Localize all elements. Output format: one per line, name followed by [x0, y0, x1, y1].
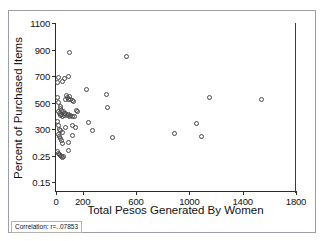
data-point	[84, 87, 89, 92]
data-point	[55, 95, 60, 100]
data-point	[60, 141, 65, 146]
data-point	[90, 128, 95, 133]
data-point	[61, 154, 66, 159]
data-point	[194, 121, 199, 126]
correlation-annotation: Correlation: r=..07853	[11, 221, 82, 233]
y-axis-tick-label: 500	[35, 97, 50, 108]
data-point	[199, 134, 204, 139]
plot-area: 11009007005003000.250.15 020060010001400…	[55, 23, 295, 192]
x-axis-tick	[83, 191, 84, 195]
data-point	[72, 114, 77, 119]
x-axis-tick	[189, 191, 190, 195]
data-point	[207, 95, 212, 100]
data-point	[75, 109, 80, 114]
y-axis-tick	[52, 182, 56, 183]
scatter-plot-figure: Percent of Purchased Items 1100900700500…	[0, 0, 324, 241]
x-axis-tick	[296, 191, 297, 195]
x-axis-tick	[56, 191, 57, 195]
data-point	[66, 74, 71, 79]
data-point	[110, 135, 115, 140]
data-point	[105, 105, 110, 110]
y-axis-tick-label: 700	[35, 71, 50, 82]
plot-frame-right	[295, 23, 296, 193]
y-axis-tick	[52, 156, 56, 157]
data-point	[124, 54, 129, 59]
data-point	[259, 97, 264, 102]
data-point	[71, 99, 76, 104]
data-point	[63, 125, 68, 130]
data-point	[104, 92, 109, 97]
y-axis-tick	[52, 129, 56, 130]
data-point	[73, 125, 78, 130]
y-axis-tick-label: 0.25	[32, 150, 50, 161]
data-point	[70, 133, 75, 138]
x-axis-tick	[243, 191, 244, 195]
data-point	[172, 131, 177, 136]
x-axis-tick	[136, 191, 137, 195]
y-axis-tick-label: 1100	[30, 18, 50, 29]
y-axis-tick	[52, 23, 56, 24]
y-axis-title-container: Percent of Purchased Items	[10, 23, 26, 192]
data-point	[86, 120, 91, 125]
y-axis-tick-label: 0.15	[32, 177, 50, 188]
data-point	[67, 50, 72, 55]
x-axis-title: Total Pesos Generated By Women	[55, 204, 296, 216]
y-axis-tick	[52, 50, 56, 51]
data-point	[66, 140, 71, 145]
y-axis-tick-label: 300	[35, 124, 50, 135]
y-axis-title: Percent of Purchased Items	[12, 37, 24, 179]
y-axis-tick-label: 900	[35, 44, 50, 55]
data-point	[66, 148, 71, 153]
